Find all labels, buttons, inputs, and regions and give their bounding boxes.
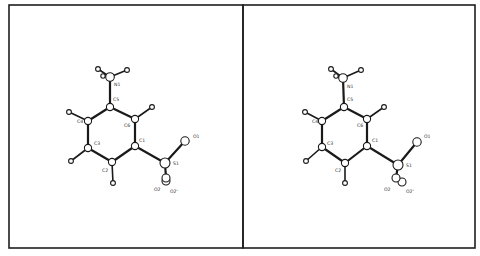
label-N1: N1: [114, 82, 120, 87]
label-C5: C5: [347, 97, 353, 102]
label-C4: C4: [77, 119, 83, 124]
atom-C3: [84, 144, 91, 151]
atom-C5: [106, 103, 113, 110]
atom-O2: [392, 174, 400, 182]
label-O2-prime: O2': [406, 189, 414, 194]
label-C1: C1: [372, 138, 378, 143]
label-C4: C4: [312, 119, 318, 124]
label-C6: C6: [124, 123, 130, 128]
label-C6: C6: [357, 123, 363, 128]
atom-N1: [106, 73, 115, 82]
atom-C1: [363, 142, 370, 149]
hydrogen-atom: [329, 67, 334, 72]
hydrogen-atom: [69, 159, 74, 164]
label-C3: C3: [94, 141, 100, 146]
hydrogen-atom: [125, 68, 130, 73]
atom-C3: [318, 143, 325, 150]
right-labels: N1 C5 C4 C6 C1 C3 C2 S1 O1 O2 O2': [312, 84, 431, 194]
hydrogen-atom: [303, 110, 308, 115]
atom-O2: [162, 174, 170, 182]
label-O2: O2: [154, 187, 161, 192]
label-C5: C5: [113, 97, 119, 102]
atom-C4: [84, 117, 91, 124]
atom-S1: [393, 160, 403, 170]
hydrogen-atom: [150, 105, 155, 110]
label-O1: O1: [193, 134, 200, 139]
hydrogen-atom: [101, 74, 105, 78]
atom-O1: [181, 137, 189, 145]
hydrogen-atom: [111, 181, 116, 186]
atom-C6: [363, 115, 370, 122]
label-N1: N1: [347, 84, 353, 89]
atom-S1: [160, 158, 170, 168]
hydrogen-atom: [359, 68, 364, 73]
label-C1: C1: [139, 138, 145, 143]
atom-C1: [131, 142, 138, 149]
atom-C2: [341, 159, 348, 166]
hydrogen-atom: [96, 67, 101, 72]
atom-C6: [131, 115, 138, 122]
atom-N1: [339, 74, 348, 83]
label-C3: C3: [327, 141, 333, 146]
hydrogen-atom: [67, 110, 72, 115]
atom-C5: [340, 103, 347, 110]
atom-C4: [318, 117, 325, 124]
label-C2: C2: [335, 168, 341, 173]
stereo-diagram: N1 C5 C4 C6 C1 C3 C2 S1 O1 O2 O2': [0, 0, 480, 256]
label-O2: O2: [384, 187, 391, 192]
atom-C2: [108, 158, 115, 165]
label-O1: O1: [424, 134, 431, 139]
label-C2: C2: [102, 168, 108, 173]
hydrogen-atom: [304, 159, 309, 164]
label-O2-prime: O2': [170, 189, 178, 194]
left-labels: N1 C5 C4 C6 C1 C3 C2 S1 O1 O2 O2': [77, 82, 200, 194]
label-S1: S1: [173, 161, 179, 166]
hydrogen-atom: [334, 74, 338, 78]
hydrogen-atom: [343, 181, 348, 186]
hydrogen-atom: [382, 105, 387, 110]
atom-O1: [413, 138, 421, 146]
label-S1: S1: [406, 163, 412, 168]
